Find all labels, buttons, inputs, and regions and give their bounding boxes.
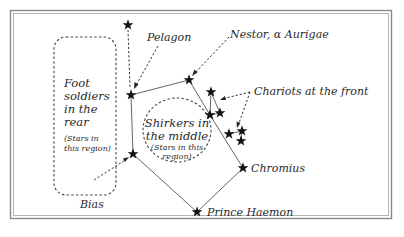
star-icon-chariot-c: [215, 107, 226, 117]
constellation-diagram: Foot soldiers in the rear (Stars in this…: [0, 0, 404, 237]
star-labels: Pelagon Nestor, α Aurigae Chariots at th…: [79, 28, 369, 219]
region-rear: Foot soldiers in the rear (Stars in this…: [54, 37, 116, 195]
region-rear-note-2: this region): [64, 144, 111, 153]
leader-top-star: [128, 30, 130, 88]
region-rear-note-1: (Stars in: [64, 134, 99, 143]
region-rear-label-3: in the: [64, 102, 98, 116]
label-bias: Bias: [79, 198, 104, 211]
region-middle-label-2: the middle: [146, 129, 208, 143]
region-rear-label-2: soldiers: [64, 89, 110, 103]
star-icon-top: [123, 19, 134, 29]
label-chromius: Chromius: [251, 162, 305, 175]
region-middle-label-1: Shirkers in: [145, 116, 209, 130]
star-icon-nestor: [184, 74, 195, 84]
region-middle: Shirkers in the middle (Stars in this re…: [143, 98, 211, 162]
region-middle-note-2: region): [162, 152, 191, 161]
label-nestor: Nestor, α Aurigae: [229, 28, 329, 41]
label-pelagon: Pelagon: [146, 31, 191, 44]
region-rear-label-4: rear: [64, 115, 90, 129]
star-icon-chariot-d: [224, 128, 235, 138]
region-rear-label-1: Foot: [63, 76, 90, 90]
star-icon-chariot-f: [236, 135, 247, 145]
label-prince-haemon: Prince Haemon: [206, 206, 293, 219]
label-chariots: Chariots at the front: [254, 85, 369, 98]
region-middle-note-1: (Stars in this: [151, 143, 203, 152]
